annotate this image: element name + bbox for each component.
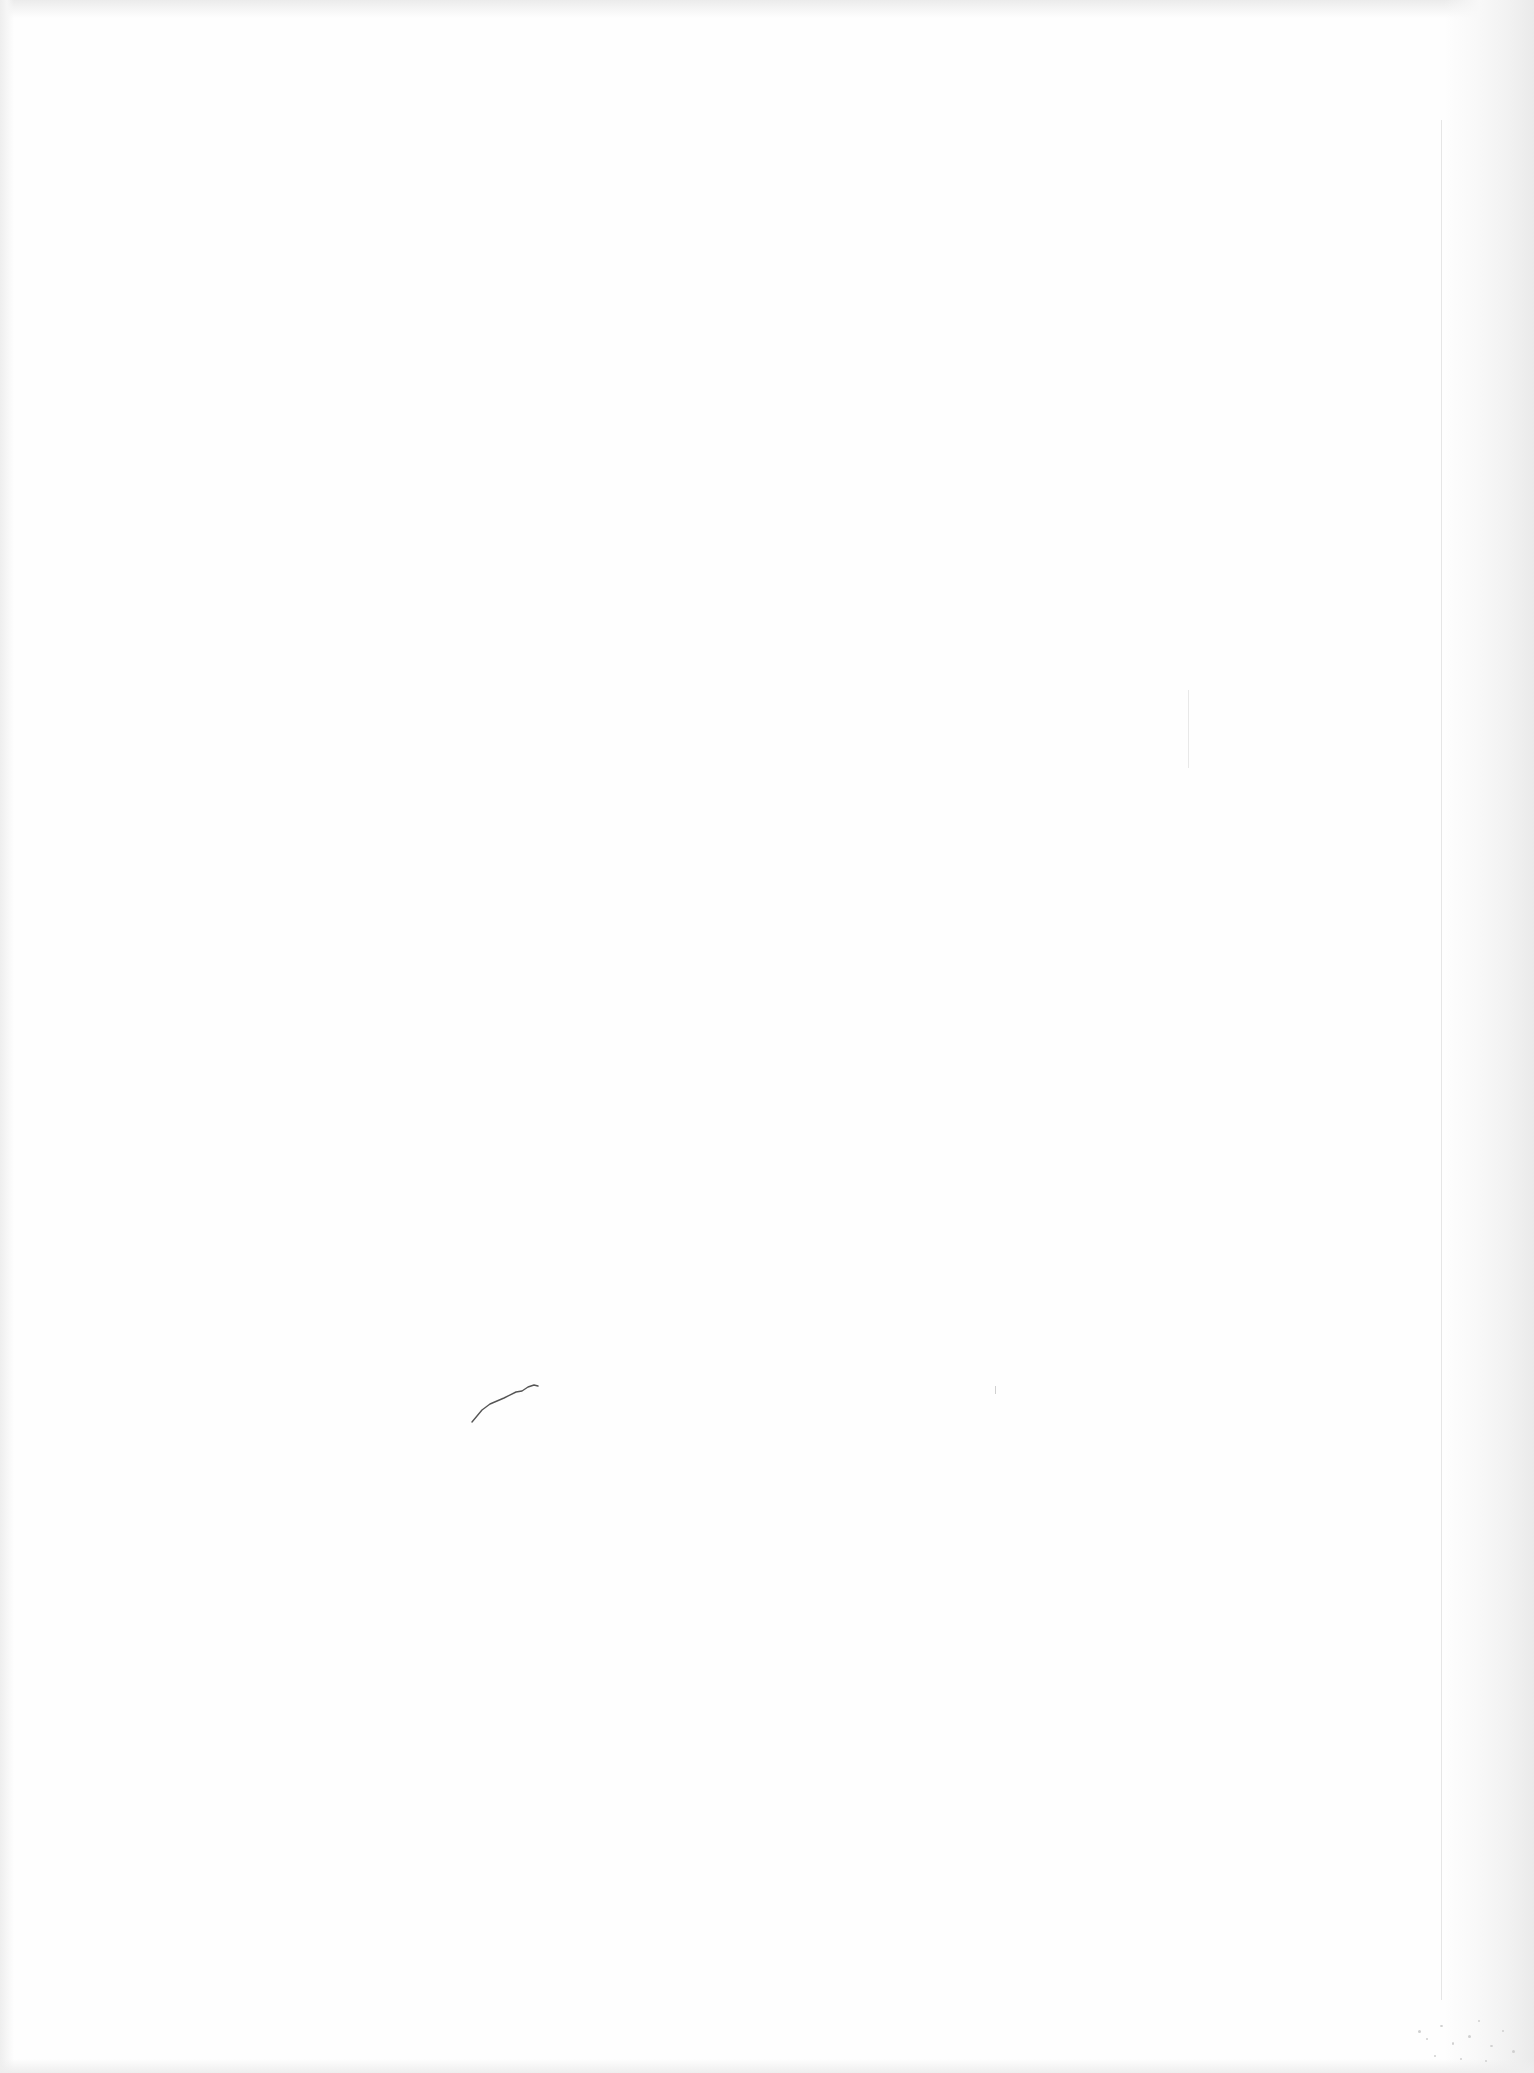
scan-edge-right xyxy=(1444,0,1534,2073)
blank-scanned-page xyxy=(0,0,1534,2073)
pencil-stroke-mark xyxy=(468,1374,544,1426)
paper-fold-line xyxy=(1441,120,1442,2000)
scan-edge-bottom xyxy=(0,2059,1534,2073)
scan-edge-left xyxy=(0,0,14,2073)
small-mark xyxy=(995,1386,996,1394)
scan-edge-top xyxy=(0,0,1534,18)
faint-vertical-mark xyxy=(1188,690,1189,768)
